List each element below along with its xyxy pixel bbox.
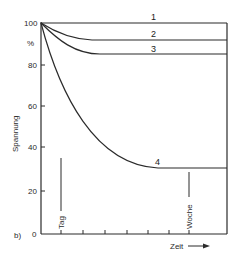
y-tick-60: 60 [28,102,37,111]
y-tick-80: 80 [28,61,37,70]
x-axis-label: Zeit [170,242,184,251]
y-tick-40: 40 [28,143,37,152]
y-tick-20: 20 [28,187,37,196]
woche-label: Woche [185,204,194,229]
panel-label: b) [14,231,21,240]
curve-3-label: 3 [151,44,156,54]
curve-3 [41,23,227,54]
tag-label: Tag [57,216,66,229]
y-axis-label: Spannung [11,116,20,152]
curve-4 [41,23,227,168]
curve-2-label: 2 [151,29,156,39]
y-tick-100: 100 [24,19,38,28]
curve-1-label: 1 [151,12,156,22]
y-tick-0: 0 [32,230,37,239]
curve-2 [41,23,227,40]
time-arrow-head [203,244,210,249]
stress-relaxation-chart: 100 % 80 60 40 20 0 Spannung Tag Woche Z… [0,0,236,261]
curve-4-label: 4 [155,157,160,167]
y-unit-percent: % [27,39,34,48]
